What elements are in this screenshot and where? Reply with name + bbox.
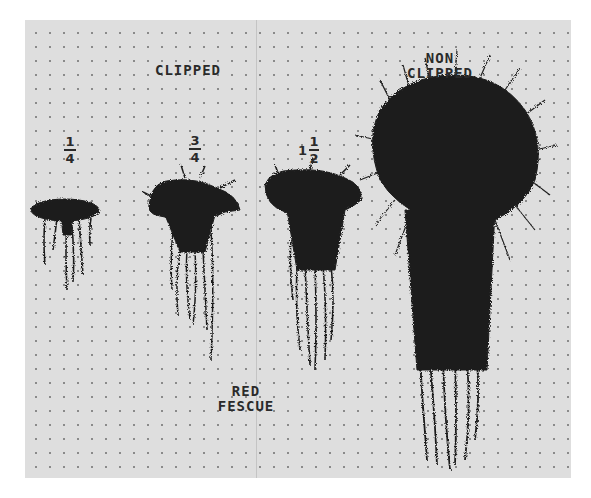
treatment-label-one-and-half: 1 1 2 — [298, 135, 319, 165]
species-label-line2: FESCUE — [211, 399, 281, 414]
non-clipped-label: NON CLIPPED — [405, 51, 475, 81]
fraction-denominator: 2 — [309, 152, 319, 165]
species-label: RED FESCUE — [211, 384, 281, 414]
fraction-denominator: 4 — [189, 151, 201, 164]
fraction-numerator: 1 — [309, 135, 319, 148]
clipped-label: CLIPPED — [155, 63, 221, 78]
treatment-label-three-quarter: 3 4 — [189, 134, 201, 164]
fraction-numerator: 3 — [189, 134, 201, 147]
plant-non-clipped — [355, 50, 557, 470]
non-clipped-label-line1: NON — [405, 51, 475, 66]
fraction-numerator: 1 — [64, 135, 76, 148]
plant-quarter-clipped — [31, 199, 99, 290]
plant-three-quarter-clipped — [143, 165, 240, 360]
fraction-whole: 1 — [298, 144, 307, 157]
treatment-label-quarter: 1 4 — [64, 135, 76, 165]
non-clipped-label-line2: CLIPPED — [405, 66, 475, 81]
photograph: CLIPPED NON CLIPPED 1 4 3 4 1 1 2 RED FE… — [25, 20, 571, 478]
plant-specimens — [25, 20, 571, 478]
species-label-line1: RED — [211, 384, 281, 399]
fraction-denominator: 4 — [64, 152, 76, 165]
plant-one-and-half-clipped — [265, 158, 361, 370]
